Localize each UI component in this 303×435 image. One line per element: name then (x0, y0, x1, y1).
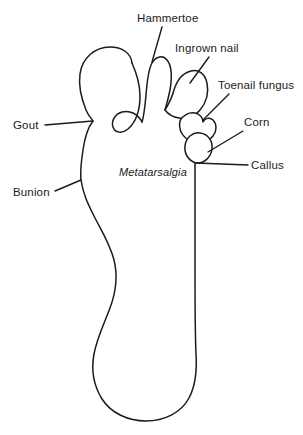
label-toenail-fungus: Toenail fungus (218, 79, 294, 91)
leader-line-callus (196, 163, 248, 165)
label-gout: Gout (13, 119, 39, 131)
label-metatarsalgia: Metatarsalgia (119, 166, 187, 178)
leader-line-bunion (55, 180, 81, 191)
foot-conditions-diagram: Hammertoe Ingrown nail Toenail fungus Co… (0, 0, 303, 435)
leader-line-gout (45, 121, 93, 125)
foot-diagram-svg: Hammertoe Ingrown nail Toenail fungus Co… (0, 0, 303, 435)
label-callus: Callus (251, 159, 284, 171)
label-hammertoe: Hammertoe (137, 12, 198, 24)
label-corn: Corn (244, 116, 270, 128)
label-ingrown-nail: Ingrown nail (175, 42, 239, 54)
label-bunion: Bunion (13, 186, 50, 198)
foot-outline-group (79, 47, 216, 421)
fifth-toe-outline (185, 133, 212, 163)
